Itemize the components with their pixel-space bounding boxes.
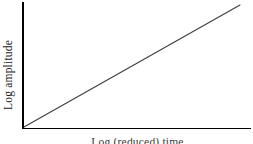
figure-panel: Log amplitude Log (reduced) time (0, 0, 253, 144)
x-axis-label: Log (reduced) time (22, 138, 253, 144)
data-line-linear-trend (24, 5, 240, 127)
x-axis-label-clip: Log (reduced) time (22, 138, 253, 144)
plot-canvas (0, 0, 253, 144)
